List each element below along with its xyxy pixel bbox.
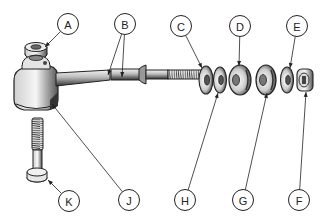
- washer-c: [199, 66, 213, 94]
- callout-h: H: [175, 93, 219, 211]
- stabilizer-link-exploded-diagram: ABCDEFGHJK: [0, 0, 330, 223]
- callout-letter: E: [293, 21, 300, 33]
- washer-h: [214, 67, 227, 93]
- link-eye-body-j: [14, 55, 58, 110]
- leader-line: [245, 93, 267, 190]
- callout-letter: B: [121, 19, 128, 31]
- callout-letter: G: [239, 195, 248, 207]
- callout-letter: J: [126, 195, 132, 207]
- leader-line: [52, 104, 122, 192]
- callout-b: B: [108, 14, 136, 78]
- callout-letter: K: [65, 196, 73, 208]
- callout-letter: F: [296, 195, 303, 207]
- callout-k: K: [48, 180, 80, 212]
- callout-letter: H: [181, 195, 189, 207]
- callout-letter: C: [177, 21, 185, 33]
- callout-letter: D: [236, 21, 244, 33]
- callout-c: C: [171, 16, 203, 69]
- arrowhead-icon: [215, 93, 219, 98]
- callout-d: D: [230, 16, 251, 67]
- callout-labels: ABCDEFGHJK: [45, 14, 310, 212]
- callout-e: E: [287, 16, 308, 69]
- washer-e: [281, 67, 294, 93]
- arrowhead-icon: [289, 63, 293, 68]
- rubber-bush-d: [229, 65, 251, 95]
- link-rod-b: [56, 65, 202, 86]
- leader-line: [186, 35, 202, 68]
- bolt-k: [27, 118, 47, 182]
- callout-g: G: [233, 93, 268, 211]
- callout-letter: A: [64, 19, 72, 31]
- rubber-bush-g: [256, 65, 276, 95]
- locknut-f: [297, 69, 313, 91]
- callout-a: A: [45, 14, 79, 48]
- arrowhead-icon: [198, 63, 202, 68]
- leader-line: [188, 93, 218, 190]
- arrowhead-icon: [304, 92, 308, 97]
- callout-f: F: [289, 92, 310, 211]
- leader-line: [300, 92, 306, 190]
